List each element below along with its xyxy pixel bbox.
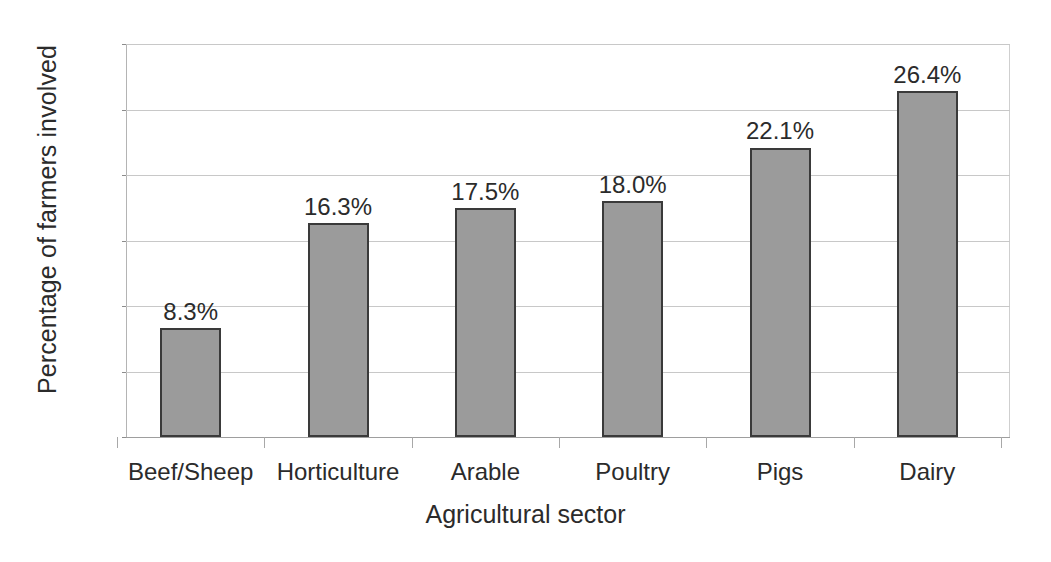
x-axis-tick-mark (412, 437, 413, 448)
x-axis-tick-mark (706, 437, 707, 448)
bar-value-label: 22.1% (720, 117, 840, 145)
gridline (126, 175, 1010, 176)
bar (160, 328, 221, 437)
x-axis-tick-label: Horticulture (277, 458, 400, 486)
gridline (126, 44, 1010, 45)
x-axis-tick-label: Dairy (899, 458, 955, 486)
bar-value-label: 26.4% (867, 61, 987, 89)
gridline (126, 110, 1010, 111)
bar (897, 91, 958, 437)
bar (602, 201, 663, 437)
bar-value-label: 16.3% (278, 193, 398, 221)
gridline (126, 437, 1010, 438)
bar (308, 223, 369, 437)
bar (455, 208, 516, 437)
bar-value-label: 8.3% (131, 298, 251, 326)
bar-value-label: 18.0% (573, 171, 693, 199)
x-axis-tick-mark (559, 437, 560, 448)
y-axis-title: Percentage of farmers involved (33, 10, 62, 430)
x-axis-tick-label: Pigs (757, 458, 804, 486)
x-axis-tick-label: Beef/Sheep (128, 458, 253, 486)
plot-area: 8.3%16.3%17.5%18.0%22.1%26.4% (126, 44, 1010, 437)
x-axis-tick-label: Poultry (595, 458, 670, 486)
x-axis-tick-mark (117, 437, 118, 448)
x-axis-title: Agricultural sector (0, 500, 1051, 529)
x-axis-tick-mark (264, 437, 265, 448)
bar-value-label: 17.5% (425, 178, 545, 206)
x-axis-tick-label: Arable (451, 458, 520, 486)
bar (750, 148, 811, 438)
bar-chart-figure: Percentage of farmers involved 051015202… (0, 0, 1051, 562)
gridline (126, 306, 1010, 307)
x-axis-tick-mark (854, 437, 855, 448)
x-axis-tick-mark (1001, 437, 1002, 448)
gridline (126, 372, 1010, 373)
gridline (126, 241, 1010, 242)
